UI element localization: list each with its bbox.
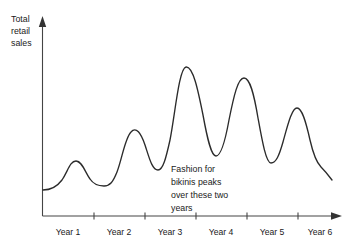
- y-axis-label-line-3: sales: [11, 38, 32, 48]
- x-axis-label-year-1: Year 1: [56, 227, 81, 237]
- y-axis-label-line-1: Total: [11, 14, 30, 24]
- chart-container: Total retail sales Year 1 Year 2 Year 3 …: [0, 0, 353, 252]
- annotation-line-1: Fashion for: [171, 164, 215, 174]
- x-axis-label-year-6: Year 6: [308, 227, 333, 237]
- line-chart-svg: Total retail sales Year 1 Year 2 Year 3 …: [0, 0, 353, 252]
- x-axis-label-year-3: Year 3: [158, 227, 183, 237]
- x-axis-label-year-4: Year 4: [209, 227, 234, 237]
- y-axis-label-line-2: retail: [11, 26, 30, 36]
- x-axis-label-year-2: Year 2: [107, 227, 132, 237]
- x-axis-arrow-icon: [331, 212, 342, 219]
- annotation-line-3: over these two: [171, 190, 228, 200]
- x-axis-label-year-5: Year 5: [260, 227, 285, 237]
- y-axis-arrow-icon: [39, 16, 46, 27]
- annotation-line-2: bikinis peaks: [171, 177, 222, 187]
- annotation-line-4: years: [171, 203, 193, 213]
